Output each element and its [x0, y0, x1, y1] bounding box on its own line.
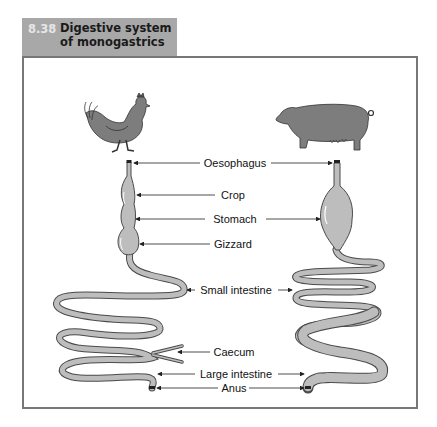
- chicken-digestive-tract: [57, 160, 185, 389]
- pig-digestive-tract: [296, 160, 383, 389]
- chicken-icon: [85, 93, 150, 152]
- label-large-intestine: Large intestine: [200, 368, 272, 380]
- label-anus: Anus: [221, 382, 247, 394]
- label-caecum: Caecum: [214, 346, 255, 358]
- label-small-intestine: Small intestine: [200, 284, 272, 296]
- label-crop: Crop: [221, 189, 245, 201]
- label-stomach: Stomach: [213, 213, 256, 225]
- label-gizzard: Gizzard: [214, 238, 252, 250]
- pig-icon: [276, 104, 374, 150]
- label-oesophagus: Oesophagus: [204, 157, 267, 169]
- diagram-canvas: Oesophagus Crop Stomach Gizzard Small in…: [0, 0, 437, 427]
